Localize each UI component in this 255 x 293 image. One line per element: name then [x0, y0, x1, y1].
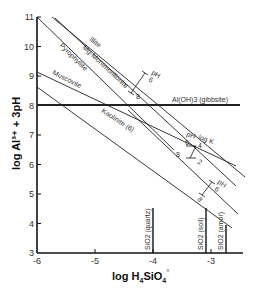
y-tick-label: 11	[25, 12, 34, 22]
stability-diagram: 11 10 9 8 7 6 5 4 3 -6 -5 -4 -3 log H4Si…	[0, 0, 255, 293]
y-tick-label: 7	[29, 130, 34, 140]
y-tick-label: 9	[29, 71, 34, 81]
muscovite-line	[37, 72, 236, 166]
gibbsite-label: Al(OH)3 (gibbsite)	[172, 96, 228, 104]
ph-8-label-3: 8	[196, 196, 204, 203]
soil-label: SiO2 (soil)	[197, 217, 205, 250]
log-k-4-label: 4	[198, 142, 202, 149]
kaolinite-line	[37, 87, 232, 228]
amor-label: SiO2 (amor)	[217, 212, 225, 250]
pyrophyllite-line	[37, 17, 174, 150]
y-tick-label: 6	[29, 160, 34, 170]
ph-scale-3	[199, 180, 215, 197]
y-axis-label: log Al³⁺ + 3pH	[10, 97, 22, 170]
x-tick-label: -3	[207, 256, 215, 266]
y-tick-label: 4	[29, 219, 34, 229]
kaolinite-label: Kaolinite (6)	[100, 107, 136, 134]
ph-6-label: 6	[148, 76, 155, 84]
x-tick-label: -4	[149, 256, 157, 266]
x-axis-label: log H4SiO4°	[112, 268, 169, 284]
y-tick-label: 10	[24, 42, 34, 52]
ph-8-label: 8	[136, 93, 140, 100]
log-k-2-label: 2	[197, 158, 204, 166]
y-tick-label: 8	[29, 101, 34, 111]
ph-6-label-2: 6	[185, 139, 189, 146]
x-tick-label: -5	[91, 256, 99, 266]
x-tick-label: -6	[33, 256, 41, 266]
y-tick-label: 5	[29, 189, 34, 199]
quartz-label: SiO2 (quartz)	[144, 208, 152, 250]
ph-8-label-2: 8	[176, 151, 180, 158]
